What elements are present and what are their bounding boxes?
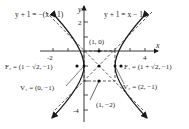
x-axis-label: x <box>155 41 160 50</box>
leader-1-m2 <box>90 81 99 100</box>
asymptote-right <box>55 12 152 110</box>
y-axis-label: y <box>77 5 82 14</box>
label-point-1-m2: (1, −2) <box>96 101 116 109</box>
y-tick-label-neg4: -4 <box>73 107 79 115</box>
label-focus-2: F₂ = (1 − √2, −1) <box>5 63 53 71</box>
point-focus-2 <box>75 64 78 67</box>
point-vertex-2 <box>114 65 117 68</box>
asymptote-left-label: y + 1 = −(x − 1) <box>15 10 64 19</box>
hyperbola-diagram: x y -2 4 2 -4 y + 1 = −(x − 1) y + 1 = x… <box>0 0 189 129</box>
point-vertex-1 <box>83 65 86 68</box>
y-axis <box>84 6 88 122</box>
points <box>75 49 122 82</box>
label-vertex-1: V₁ = (0, −1) <box>20 84 55 92</box>
label-point-1-0: (1, 0) <box>89 38 105 46</box>
y-tick-label-2: 2 <box>78 19 82 27</box>
label-vertex-2: V₂ = (2, −1) <box>123 83 158 91</box>
x-tick-label-4: 4 <box>143 54 147 62</box>
point-center <box>97 64 100 67</box>
left-branch <box>52 17 84 118</box>
point-1-0 <box>97 49 100 52</box>
point-1-m2 <box>97 79 100 82</box>
asymptotes <box>46 12 152 110</box>
asymptote-right-label: y + 1 = x − 1 <box>104 10 143 19</box>
point-focus-1 <box>119 64 122 67</box>
label-focus-1: F₁ = (1 + √2, −1) <box>124 63 172 71</box>
x-tick-label-neg2: -2 <box>47 54 53 62</box>
